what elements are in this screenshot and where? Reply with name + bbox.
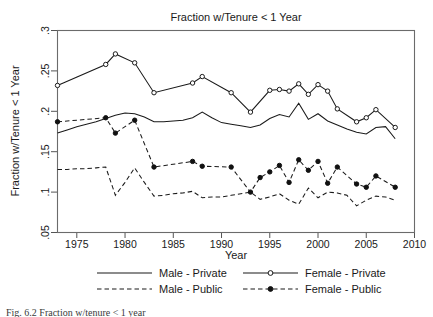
series-marker — [325, 181, 329, 185]
series-marker — [354, 120, 358, 124]
x-tick-label: 1995 — [258, 238, 282, 250]
series-marker — [374, 174, 378, 178]
series-marker — [200, 164, 204, 168]
series-marker — [297, 82, 301, 86]
series-marker — [55, 83, 59, 87]
legend-label: Male - Public — [159, 283, 223, 295]
y-tick-label: .15 — [39, 144, 51, 159]
legend-label: Male - Private — [159, 267, 227, 279]
y-tick-label: .3 — [39, 26, 51, 35]
series-marker — [335, 107, 339, 111]
y-tick-label: .05 — [39, 225, 51, 240]
series-marker — [354, 182, 358, 186]
series-marker — [113, 52, 117, 56]
series-marker — [190, 81, 194, 85]
series-marker — [335, 165, 339, 169]
x-tick-label: 1975 — [65, 238, 89, 250]
series-marker — [325, 89, 329, 93]
x-tick-label: 2010 — [403, 238, 427, 250]
series-marker — [316, 159, 320, 163]
series-marker — [268, 170, 272, 174]
legend-label: Female - Private — [305, 267, 386, 279]
figure-caption: Fig. 6.2 Fraction w/tenure < 1 year — [6, 307, 146, 317]
series-marker — [277, 87, 281, 91]
x-axis-title: Year — [225, 249, 248, 261]
x-tick-label: 1985 — [162, 238, 186, 250]
figure-container: Fraction w/Tenure < 1 Year Fraction w/Te… — [0, 0, 433, 317]
series-marker — [200, 74, 204, 78]
series-marker — [229, 165, 233, 169]
series-marker — [316, 82, 320, 86]
series-marker — [152, 91, 156, 95]
series-marker — [132, 61, 136, 65]
series-marker — [393, 125, 397, 129]
series-marker — [104, 116, 108, 120]
series-marker — [229, 91, 233, 95]
x-tick-label: 2005 — [355, 238, 379, 250]
series-marker — [258, 175, 262, 179]
series-marker — [277, 163, 281, 167]
y-tick-label: .25 — [39, 63, 51, 78]
series-marker — [152, 165, 156, 169]
series-marker — [393, 185, 397, 189]
series-marker — [55, 120, 59, 124]
legend-label: Female - Public — [305, 283, 382, 295]
series-marker — [374, 107, 378, 111]
x-tick-label: 1990 — [210, 238, 234, 250]
y-axis-title: Fraction w/Tenure < 1 Year — [9, 65, 21, 196]
series-marker — [297, 158, 301, 162]
legend-marker-sample — [268, 271, 273, 276]
series-marker — [287, 180, 291, 184]
legend-marker-sample — [268, 287, 273, 292]
series-marker — [364, 185, 368, 189]
x-tick-label: 1980 — [113, 238, 137, 250]
series-marker — [268, 88, 272, 92]
series-marker — [190, 159, 194, 163]
x-tick-label: 2000 — [306, 238, 330, 250]
y-tick-label: .1 — [39, 188, 51, 197]
series-marker — [364, 116, 368, 120]
y-tick-label: .2 — [39, 107, 51, 116]
series-marker — [132, 118, 136, 122]
series-marker — [104, 62, 108, 66]
series-marker — [248, 110, 252, 114]
tenure-line-chart: Fraction w/Tenure < 1 Year Fraction w/Te… — [0, 0, 433, 317]
series-marker — [306, 168, 310, 172]
chart-title: Fraction w/Tenure < 1 Year — [170, 11, 301, 23]
series-marker — [287, 89, 291, 93]
series-marker — [248, 190, 252, 194]
series-marker — [306, 92, 310, 96]
series-marker — [113, 131, 117, 135]
